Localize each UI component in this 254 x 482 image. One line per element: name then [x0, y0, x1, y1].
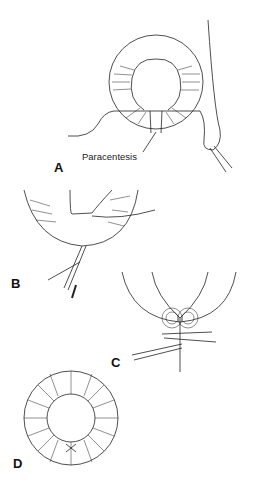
panel-b-drawing — [24, 190, 155, 298]
panel-label-b: B — [11, 276, 20, 291]
panel-label-c: C — [111, 355, 120, 370]
panel-label-a: A — [54, 160, 63, 175]
paracentesis-label: Paracentesis — [82, 151, 137, 162]
panel-c-drawing — [122, 272, 236, 372]
panel-a-drawing — [68, 20, 232, 172]
panel-label-d: D — [13, 456, 22, 471]
figure-illustration — [0, 0, 254, 482]
panel-d-drawing — [24, 371, 118, 465]
